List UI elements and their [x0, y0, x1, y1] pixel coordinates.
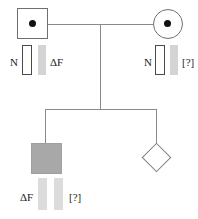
child-band-mutant [38, 178, 47, 210]
father-carrier-dot [29, 20, 36, 27]
father-band-normal [22, 45, 32, 75]
mother-lane-normal-label: N [144, 57, 152, 68]
descent-line [100, 24, 101, 109]
mother-band-normal [155, 45, 165, 75]
father-lane-mutant-label: ΔF [50, 57, 63, 68]
mother-band-mutant [170, 45, 178, 75]
father-lane-normal-label: N [10, 57, 18, 68]
mother-carrier-dot [164, 20, 171, 27]
sibline-fetus [156, 109, 157, 146]
sibline-child-affected [45, 109, 46, 144]
sibship-line [45, 109, 156, 110]
fetus-symbol-diamond[interactable] [142, 143, 172, 173]
child-lane-unknown-label: [?] [69, 192, 81, 203]
pedigree-figure: N ΔF N [?] ΔF [?] [0, 0, 198, 219]
mother-lane-unknown-label: [?] [182, 57, 194, 68]
child-band-unknown [54, 178, 63, 210]
father-band-mutant [38, 45, 46, 75]
child-lane-mutant-label: ΔF [20, 192, 33, 203]
child-affected-symbol-square[interactable] [31, 143, 62, 174]
